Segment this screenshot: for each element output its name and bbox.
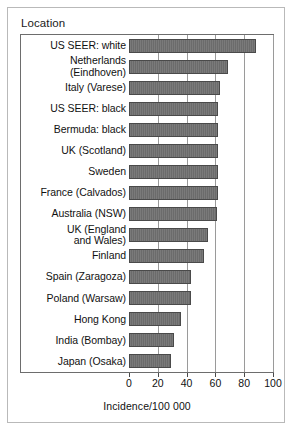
bar — [129, 270, 191, 284]
bar-row — [129, 161, 273, 182]
category-label: US SEER: white — [50, 40, 126, 52]
bar-row — [129, 225, 273, 246]
panel-title: Location — [21, 17, 65, 29]
category-label-row: Hong Kong — [21, 309, 129, 330]
bar — [129, 312, 181, 326]
category-label-row: France (Calvados) — [21, 182, 129, 203]
category-label: Poland (Warsaw) — [47, 293, 126, 305]
bar — [129, 123, 218, 137]
category-label: UK (England and Wales) — [67, 224, 126, 247]
category-label-row: Netherlands (Eindhoven) — [21, 56, 129, 77]
category-label: Bermuda: black — [54, 124, 126, 136]
bar-row — [129, 98, 273, 119]
bar-row — [129, 246, 273, 267]
bar — [129, 249, 204, 263]
category-label-row: Bermuda: black — [21, 119, 129, 140]
category-label-row: UK (England and Wales) — [21, 225, 129, 246]
category-label-row: Poland (Warsaw) — [21, 288, 129, 309]
category-label-row: Sweden — [21, 161, 129, 182]
bar-row — [129, 309, 273, 330]
bar-row — [129, 330, 273, 351]
category-label: US SEER: black — [50, 103, 126, 115]
category-label-row: Australia (NSW) — [21, 204, 129, 225]
bar-row — [129, 56, 273, 77]
bars-plot-area — [129, 35, 273, 372]
axis-tick-label: 40 — [181, 377, 193, 389]
bar-row — [129, 267, 273, 288]
bar — [129, 354, 171, 368]
category-label: Italy (Varese) — [65, 82, 126, 94]
category-label-row: Finland — [21, 246, 129, 267]
bar — [129, 291, 191, 305]
category-label: Spain (Zaragoza) — [46, 271, 126, 283]
gridline — [273, 35, 274, 372]
category-label-row: Italy (Varese) — [21, 77, 129, 98]
category-label: India (Bombay) — [56, 335, 127, 347]
bar — [129, 333, 174, 347]
category-label: Netherlands (Eindhoven) — [70, 55, 126, 78]
bar — [129, 39, 256, 53]
category-label-row: US SEER: black — [21, 98, 129, 119]
category-label: Sweden — [88, 166, 126, 178]
bar-row — [129, 35, 273, 56]
bar — [129, 228, 208, 242]
category-label: Hong Kong — [74, 314, 126, 326]
category-axis-labels: US SEER: whiteNetherlands (Eindhoven)Ita… — [21, 35, 129, 372]
category-label: Japan (Osaka) — [58, 356, 126, 368]
category-label: France (Calvados) — [40, 187, 126, 199]
axis-tick-label: 100 — [264, 377, 282, 389]
axis-tick-label: 0 — [126, 377, 132, 389]
bar-row — [129, 351, 273, 372]
bar — [129, 81, 220, 95]
bar — [129, 186, 218, 200]
category-label-row: Spain (Zaragoza) — [21, 267, 129, 288]
bar-row — [129, 182, 273, 203]
bar-row — [129, 119, 273, 140]
category-label-row: Japan (Osaka) — [21, 351, 129, 372]
bar — [129, 207, 217, 221]
bar-row — [129, 77, 273, 98]
axis-title: Incidence/100 000 — [20, 400, 274, 412]
bar — [129, 165, 218, 179]
value-axis: 020406080100 — [129, 373, 273, 393]
bar — [129, 102, 218, 116]
bar — [129, 60, 228, 74]
category-label-row: UK (Scotland) — [21, 140, 129, 161]
bar-row — [129, 288, 273, 309]
bar — [129, 144, 218, 158]
category-label: Australia (NSW) — [51, 208, 126, 220]
axis-tick-label: 60 — [210, 377, 222, 389]
bar-row — [129, 204, 273, 225]
bar-row — [129, 140, 273, 161]
category-label-row: US SEER: white — [21, 35, 129, 56]
axis-tick-label: 20 — [152, 377, 164, 389]
category-label: Finland — [92, 250, 126, 262]
chart-figure: Location US SEER: whiteNetherlands (Eind… — [7, 7, 285, 423]
category-label-row: India (Bombay) — [21, 330, 129, 351]
category-label: UK (Scotland) — [61, 145, 126, 157]
axis-tick-label: 80 — [238, 377, 250, 389]
